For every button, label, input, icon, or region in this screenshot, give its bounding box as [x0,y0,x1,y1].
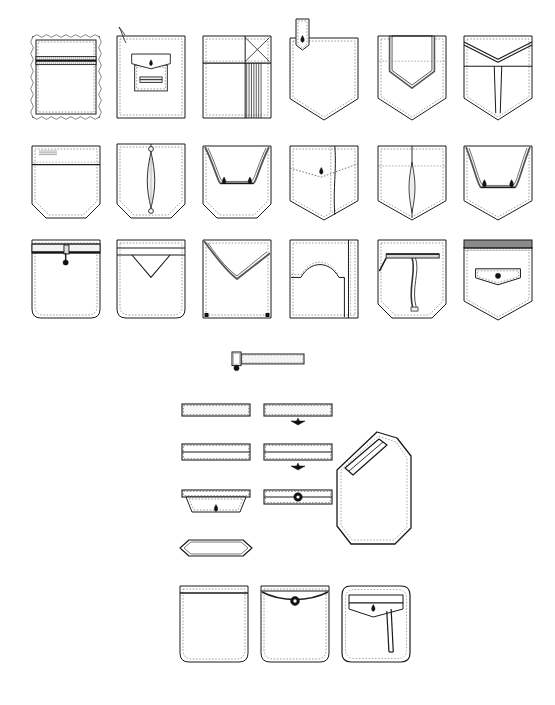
pointed-end-welt-pocket [180,540,252,556]
pocket-illustration-canvas [0,0,555,705]
double-welt-pocket-plain [182,444,250,460]
pointed-patch-pocket-with-chevron-yoke-and-center-seam [464,36,532,120]
double-welt-pocket-with-center-button [264,490,332,504]
rounded-patch-pocket-with-curved-band-and-button [261,586,329,662]
cut-corner-patch-pocket-with-center-gusset [117,144,185,218]
pointed-patch-pocket-with-pen-slot-and-zipper [378,240,446,318]
pointed-patch-pocket-with-center-gusset [378,146,446,220]
square-patch-pocket-with-arched-inset [290,240,358,318]
rounded-square-pocket-with-flap-and-pen-slot [342,586,410,662]
pointed-patch-pocket-with-button-tab [290,19,358,120]
pointed-patch-pocket-with-curved-inset-and-darts [464,146,532,220]
square-patch-pocket-with-buttoned-mini-flap [117,27,185,118]
single-welt-pocket-with-center-dart [264,404,332,425]
square-patch-pocket-with-v-envelope-flap [203,240,271,318]
rounded-patch-pocket-with-band [180,586,248,662]
round-corner-patch-pocket-with-v-notch-band [117,240,185,318]
square-patch-pocket-with-horizontal-zipper [31,35,102,120]
square-patch-pocket-with-pleats-and-x-stitch [203,36,271,118]
single-welt-pocket-plain [182,404,250,416]
pointed-patch-pocket-with-diagonal-yoke-and-button [290,146,358,220]
single-welt-pocket-with-button-tab [232,352,304,371]
pocket-technical-flats-sheet [0,0,555,705]
pointed-patch-pocket-with-button-flap-and-band [464,240,532,320]
angled-hip-pocket-with-slash-welt [337,432,411,544]
pointed-patch-pocket-with-inner-pointed-pocket [378,36,446,120]
cut-corner-patch-pocket-with-curved-inset-and-darts [203,146,271,218]
double-welt-pocket-with-center-dart [264,444,332,470]
round-corner-patch-pocket-with-zipper [32,240,100,318]
cut-corner-patch-pocket-with-band [32,146,100,218]
welt-pocket-with-pointed-button-flap [182,490,250,512]
